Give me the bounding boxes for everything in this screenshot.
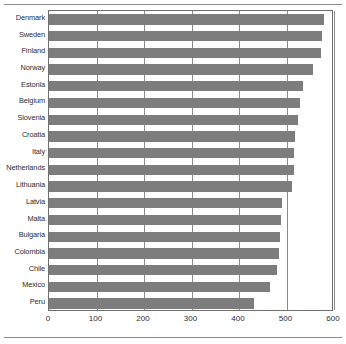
- category-label-sweden: Sweden: [0, 31, 45, 39]
- bar-latvia: [49, 198, 282, 208]
- category-label-peru: Peru: [0, 298, 45, 306]
- bar-norway: [49, 64, 313, 74]
- bar-finland: [49, 48, 321, 58]
- bar-chart: DenmarkSwedenFinlandNorwayEstoniaBelgium…: [0, 0, 346, 344]
- bar-row: [49, 148, 332, 158]
- bar-row: [49, 31, 332, 41]
- bar-row: [49, 181, 332, 191]
- bar-row: [49, 232, 332, 242]
- category-label-estonia: Estonia: [0, 81, 45, 89]
- bar-netherlands: [49, 165, 294, 175]
- category-label-latvia: Latvia: [0, 198, 45, 206]
- category-label-denmark: Denmark: [0, 14, 45, 22]
- bar-croatia: [49, 131, 295, 141]
- bar-row: [49, 14, 332, 24]
- bar-row: [49, 98, 332, 108]
- bar-row: [49, 64, 332, 74]
- bar-estonia: [49, 81, 303, 91]
- bar-row: [49, 81, 332, 91]
- category-label-slovenia: Slovenia: [0, 114, 45, 122]
- bar-row: [49, 115, 332, 125]
- category-label-malta: Malta: [0, 215, 45, 223]
- bar-row: [49, 298, 332, 308]
- bar-row: [49, 198, 332, 208]
- x-axis-tick-labels: 0100200300400500600: [0, 314, 346, 328]
- category-label-belgium: Belgium: [0, 97, 45, 105]
- bar-lithuania: [49, 181, 292, 191]
- bar-row: [49, 248, 332, 258]
- bar-belgium: [49, 98, 300, 108]
- bars: [49, 11, 332, 310]
- x-tick-label-400: 400: [231, 314, 244, 323]
- category-label-bulgaria: Bulgaria: [0, 231, 45, 239]
- x-tick-label-0: 0: [46, 314, 50, 323]
- category-label-chile: Chile: [0, 265, 45, 273]
- category-label-mexico: Mexico: [0, 281, 45, 289]
- top-divider: [4, 4, 342, 5]
- bar-slovenia: [49, 115, 298, 125]
- bar-colombia: [49, 248, 279, 258]
- bar-row: [49, 282, 332, 292]
- bar-peru: [49, 298, 254, 308]
- bar-row: [49, 165, 332, 175]
- plot-area: [48, 10, 333, 311]
- x-tick-label-200: 200: [136, 314, 149, 323]
- bar-sweden: [49, 31, 322, 41]
- category-label-italy: Italy: [0, 148, 45, 156]
- category-label-netherlands: Netherlands: [0, 164, 45, 172]
- bottom-divider: [4, 337, 342, 338]
- bar-denmark: [49, 14, 324, 24]
- category-label-croatia: Croatia: [0, 131, 45, 139]
- category-label-norway: Norway: [0, 64, 45, 72]
- bar-malta: [49, 215, 281, 225]
- category-label-lithuania: Lithuania: [0, 181, 45, 189]
- bar-row: [49, 48, 332, 58]
- x-tick-label-500: 500: [279, 314, 292, 323]
- bar-row: [49, 131, 332, 141]
- x-tick-label-100: 100: [89, 314, 102, 323]
- bar-row: [49, 215, 332, 225]
- bar-row: [49, 265, 332, 275]
- bar-italy: [49, 148, 294, 158]
- bar-mexico: [49, 282, 270, 292]
- bar-bulgaria: [49, 232, 280, 242]
- category-axis-labels: DenmarkSwedenFinlandNorwayEstoniaBelgium…: [0, 10, 45, 311]
- gridline-600: [334, 11, 335, 310]
- category-label-colombia: Colombia: [0, 248, 45, 256]
- x-tick-label-300: 300: [184, 314, 197, 323]
- category-label-finland: Finland: [0, 47, 45, 55]
- x-tick-label-600: 600: [326, 314, 339, 323]
- bar-chile: [49, 265, 277, 275]
